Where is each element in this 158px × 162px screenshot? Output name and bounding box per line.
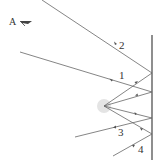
eye-icon <box>20 21 32 26</box>
ray-3-incident <box>104 106 152 118</box>
ray-2-reflected <box>42 0 152 73</box>
ray-1-reflected <box>20 52 152 92</box>
ray-3-arrow <box>113 126 116 129</box>
ray-4-arrow <box>132 145 135 148</box>
ray-2-arrow <box>114 42 117 46</box>
observer-label: A <box>9 17 16 27</box>
ray-1-arrow <box>110 79 114 82</box>
ray-label-2: 2 <box>119 40 125 51</box>
ray-label-4: 4 <box>138 144 144 155</box>
ray-label-3: 3 <box>118 127 124 138</box>
ray-diagram <box>0 0 158 162</box>
ray-1-incident-arrow <box>135 94 138 97</box>
ray-2-incident-arrow <box>135 81 139 84</box>
ray-1-incident <box>104 92 152 106</box>
ray-label-1: 1 <box>119 70 125 81</box>
